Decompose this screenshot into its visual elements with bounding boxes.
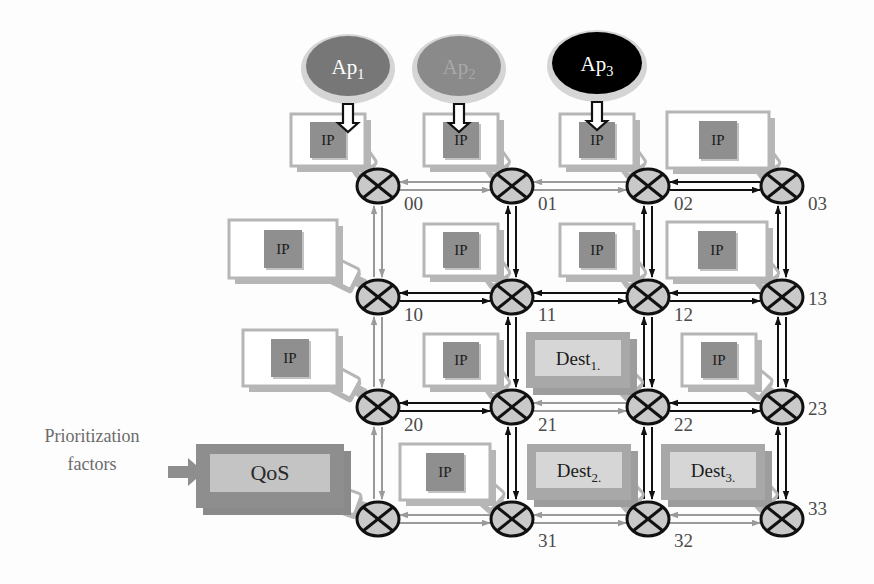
tile-ip[interactable]: IP: [243, 330, 371, 407]
router-label: 02: [674, 193, 693, 214]
router-[interactable]: [357, 502, 399, 536]
vertical-link: [778, 427, 786, 499]
vertical-link: [374, 206, 382, 277]
prioritization-annotation: Prioritizationfactors: [45, 426, 204, 486]
router-13[interactable]: 13: [761, 280, 827, 314]
router-label: 00: [404, 193, 423, 214]
ip-label: IP: [711, 132, 724, 148]
ip-label: IP: [283, 350, 296, 366]
router-10[interactable]: 10: [357, 280, 423, 325]
app-subscript: 3: [606, 63, 613, 79]
router-label: 12: [674, 304, 693, 325]
horizontal-link: [670, 293, 760, 301]
router-33[interactable]: 33: [761, 498, 827, 536]
noc-mesh-diagram: IPIPIPIPIPIPIPIPIPIPDest1.IPQoSIPDest2.D…: [0, 0, 874, 584]
router-02[interactable]: 02: [627, 169, 693, 214]
router-label: 01: [538, 193, 557, 214]
ip-label: IP: [276, 241, 289, 257]
ip-label: IP: [438, 464, 451, 480]
ip-label: IP: [712, 352, 725, 368]
ip-label: IP: [454, 242, 467, 258]
router-23[interactable]: 23: [761, 390, 827, 424]
router-label: 13: [808, 288, 827, 309]
vertical-link: [778, 317, 786, 387]
dest-subscript: 1.: [591, 358, 601, 373]
horizontal-link: [534, 515, 626, 523]
router-22[interactable]: 22: [627, 390, 693, 435]
vertical-link: [778, 206, 786, 277]
ip-label: IP: [710, 242, 723, 258]
router-32[interactable]: 32: [627, 502, 693, 551]
tile-layer: IPIPIPIPIPIPIPIPIPIPDest1.IPQoSIPDest2.D…: [196, 112, 785, 522]
ip-label: IP: [590, 132, 603, 148]
prioritization-line-2: factors: [68, 454, 117, 474]
router-label: 20: [404, 414, 423, 435]
router-label: 21: [538, 414, 557, 435]
tile-dest[interactable]: Dest1.: [526, 332, 649, 405]
router-12[interactable]: 12: [627, 280, 693, 325]
ip-label: IP: [590, 242, 603, 258]
tile-ip[interactable]: IP: [400, 444, 511, 518]
vertical-link: [374, 427, 382, 499]
horizontal-link: [400, 293, 490, 301]
vertical-link: [508, 317, 516, 387]
vertical-link: [508, 427, 516, 499]
tile-dest[interactable]: Dest2.: [527, 444, 649, 517]
app-subscript: 2: [468, 66, 475, 82]
prioritization-line-1: Prioritization: [45, 426, 140, 446]
vertical-link: [644, 427, 652, 499]
horizontal-link: [400, 403, 490, 411]
router-label: 31: [538, 530, 557, 551]
router-11[interactable]: 11: [491, 280, 556, 325]
diagram-canvas: IPIPIPIPIPIPIPIPIPIPDest1.IPQoSIPDest2.D…: [0, 0, 874, 584]
router-label: 23: [808, 398, 827, 419]
vertical-link: [644, 206, 652, 277]
router-label: 22: [674, 414, 693, 435]
horizontal-link: [534, 293, 626, 301]
router-01[interactable]: 01: [491, 169, 557, 214]
router-20[interactable]: 20: [357, 390, 423, 435]
router-03[interactable]: 03: [761, 169, 827, 214]
ip-label: IP: [454, 352, 467, 368]
qos-label: QoS: [250, 460, 289, 485]
horizontal-link: [534, 403, 626, 411]
vertical-link: [508, 206, 516, 277]
router-21[interactable]: 21: [491, 390, 557, 435]
horizontal-link: [670, 182, 760, 190]
router-label: 33: [808, 498, 827, 519]
tile-ip[interactable]: IP: [229, 220, 370, 298]
router-00[interactable]: 00: [357, 169, 423, 214]
router-31[interactable]: 31: [491, 502, 557, 551]
ip-label: IP: [321, 132, 334, 148]
vertical-link: [644, 317, 652, 387]
tile-qos[interactable]: QoS: [196, 444, 370, 522]
tile-dest[interactable]: Dest3.: [661, 444, 783, 517]
horizontal-link: [400, 182, 490, 190]
annotation-layer: Prioritizationfactors: [45, 426, 204, 486]
horizontal-link: [400, 515, 490, 523]
router-label: 11: [538, 304, 556, 325]
dest-subscript: 2.: [592, 470, 602, 485]
horizontal-link: [670, 403, 760, 411]
vertical-link: [374, 317, 382, 387]
ip-label: IP: [454, 132, 467, 148]
horizontal-link: [534, 182, 626, 190]
router-label: 10: [404, 304, 423, 325]
dest-subscript: 3.: [726, 470, 736, 485]
horizontal-link: [670, 515, 760, 523]
router-label: 03: [808, 193, 827, 214]
router-label: 32: [674, 530, 693, 551]
app-subscript: 1: [357, 66, 364, 82]
